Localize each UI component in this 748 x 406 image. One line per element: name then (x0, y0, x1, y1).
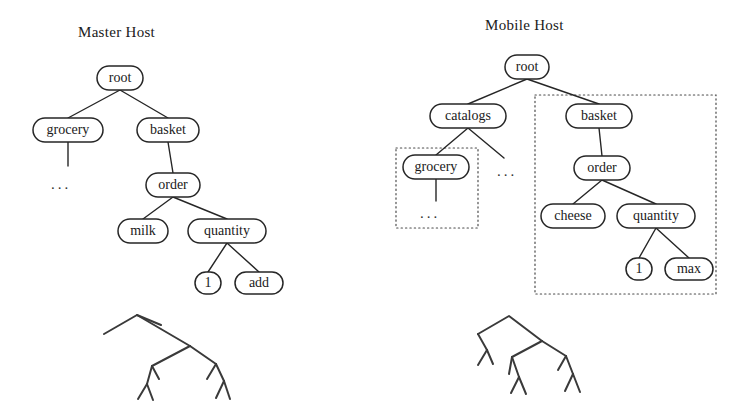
mobile-edge-order-to-cheese (573, 180, 602, 204)
mobile-edge-catalogs-to-grocery (436, 128, 468, 155)
mobile-edge-root-to-basket (527, 79, 599, 104)
mobile-sketch-stroke-0 (478, 316, 542, 341)
master-sketch-stroke-3 (152, 366, 159, 379)
mobile-sketch-stroke-2 (487, 350, 493, 364)
master-node-milk[interactable] (118, 219, 168, 243)
mobile-edge-order-to-quantity (602, 180, 656, 204)
mobile-sketch-stroke-7 (519, 377, 526, 394)
figure-canvas: Master Host Mobile Host rootgrocerybaske… (0, 0, 748, 406)
master-sketch-stroke-2 (147, 346, 190, 384)
mobile-sketch-stroke-5 (509, 357, 512, 374)
mobile-ellipsis-grocery-children: ... (420, 205, 440, 222)
master-sketch-stroke-10 (216, 381, 224, 398)
master-sketch-stroke-4 (147, 384, 153, 400)
mobile-node-basket[interactable] (566, 104, 632, 128)
mobile-node-one[interactable] (626, 258, 652, 280)
mobile-sketch-stroke-6 (512, 357, 519, 377)
mobile-sketch-stroke-11 (566, 356, 573, 374)
panel-title-mobile-host: Mobile Host (485, 17, 564, 34)
mobile-edge-root-to-catalogs (468, 79, 527, 104)
mobile-sketch-stroke-13 (565, 374, 573, 391)
panel-title-master-host: Master Host (78, 24, 155, 41)
master-node-root[interactable] (97, 66, 143, 90)
mobile-node-max[interactable] (665, 258, 713, 280)
master-sketch-stroke-7 (207, 364, 216, 379)
master-edge-quantity-to-add (227, 243, 259, 272)
mobile-node-grocery[interactable] (403, 155, 469, 179)
mobile-edge-quantity-to-max (656, 228, 689, 258)
master-node-grocery[interactable] (33, 118, 103, 142)
mobile-node-cheese[interactable] (541, 204, 605, 228)
mobile-edge-basket-to-order (599, 128, 602, 156)
mobile-node-order[interactable] (574, 156, 630, 180)
master-edge-basket-to-order (168, 142, 173, 173)
tree-diagram-vector-layer (0, 0, 748, 406)
mobile-sketch-stroke-4 (512, 341, 542, 357)
master-edge-order-to-milk (143, 197, 173, 219)
master-node-order[interactable] (146, 173, 200, 197)
master-sketch-stroke-6 (190, 346, 216, 364)
mobile-node-quantity[interactable] (617, 204, 695, 228)
mobile-sketch-stroke-1 (478, 334, 487, 350)
mobile-sketch-stroke-12 (573, 374, 580, 392)
master-edge-root-to-grocery (68, 90, 120, 118)
mobile-sketch-stroke-10 (558, 356, 566, 370)
master-node-add[interactable] (235, 272, 283, 294)
mobile-ellipsis-catalogs-more: ... (497, 163, 517, 180)
master-edge-quantity-to-one (208, 243, 227, 272)
master-sketch-stroke-9 (224, 381, 230, 399)
mobile-sketch-stroke-3 (478, 350, 487, 365)
master-edge-order-to-quantity (173, 197, 227, 219)
mobile-node-catalogs[interactable] (430, 104, 506, 128)
master-sketch-stroke-1 (137, 315, 190, 346)
master-edge-root-to-basket (120, 90, 168, 118)
mobile-edge-quantity-to-one (639, 228, 656, 258)
mobile-edge-catalogs-to-ellipsis (468, 128, 504, 158)
master-node-one[interactable] (195, 272, 221, 294)
master-node-basket[interactable] (137, 118, 199, 142)
master-sketch-stroke-5 (138, 384, 147, 399)
master-sketch-stroke-8 (216, 364, 224, 381)
master-ellipsis-grocery-children: ... (51, 176, 71, 193)
master-node-quantity[interactable] (188, 219, 266, 243)
mobile-sketch-stroke-8 (511, 377, 519, 393)
mobile-sketch-stroke-9 (542, 341, 566, 356)
mobile-node-root[interactable] (505, 55, 549, 79)
